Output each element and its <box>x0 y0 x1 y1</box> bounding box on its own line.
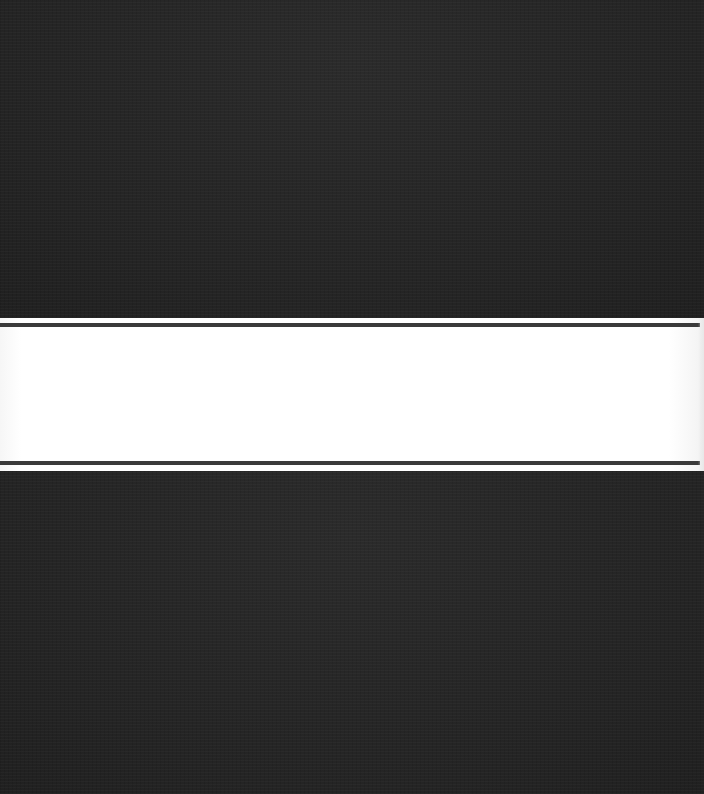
white-band <box>0 318 704 471</box>
top-dark-rule <box>0 323 700 327</box>
photo-canvas <box>0 0 704 794</box>
bottom-dark-rule <box>0 461 700 465</box>
band-right-edge <box>698 318 704 471</box>
dark-surface-bottom <box>0 471 704 794</box>
dark-surface-top <box>0 0 704 318</box>
